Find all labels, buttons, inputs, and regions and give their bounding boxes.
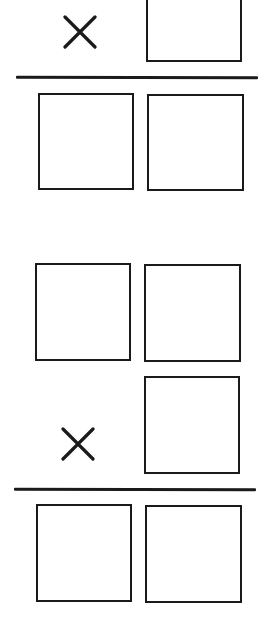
multiplication-sign-icon [61, 427, 95, 461]
answer-box-multiplicand-tens[interactable] [35, 263, 131, 361]
answer-box-multiplicand-ones[interactable] [144, 264, 241, 362]
answer-box-product-tens[interactable] [38, 93, 134, 190]
answer-box-product-ones[interactable] [145, 505, 242, 603]
answer-line [14, 488, 256, 491]
multiplication-sign-icon [63, 15, 97, 49]
answer-box-product-ones[interactable] [147, 94, 244, 191]
answer-box-multiplier[interactable] [146, 0, 242, 62]
answer-line [16, 76, 258, 79]
answer-box-product-tens[interactable] [36, 504, 132, 602]
answer-box-multiplier[interactable] [144, 376, 240, 474]
